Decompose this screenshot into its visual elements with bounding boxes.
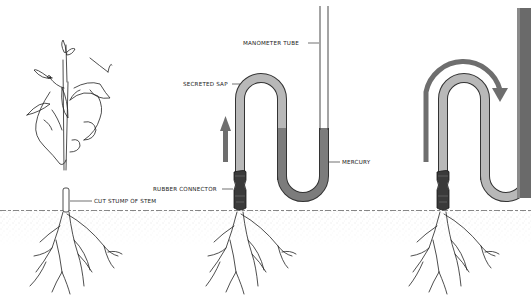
u-tube [240, 78, 282, 180]
manometer-tube [320, 6, 328, 130]
rubber-connector [234, 171, 246, 211]
mercury-u-bend [282, 128, 324, 197]
up-arrow-icon [220, 116, 231, 162]
cut-stump-label: CUT STUMP OF STEM [94, 198, 156, 204]
cut-stump [63, 188, 69, 212]
hand-with-plant-illustration [27, 40, 112, 170]
right-edge-shadow [517, 8, 531, 198]
panel-3 [409, 8, 531, 294]
manometer-tube-label: MANOMETER TUBE [243, 40, 299, 46]
mercury-label: MERCURY [342, 159, 371, 165]
root-pressure-diagram: CUT STUMP OF STEM [0, 0, 531, 307]
secreted-sap-label: SECRETED SAP [183, 81, 228, 87]
u-tube-overflow [443, 78, 527, 197]
rubber-connector-3 [437, 171, 449, 211]
panel-2: MANOMETER TUBE SECRETED SAP MERCURY RUBB… [153, 6, 371, 294]
rubber-connector-label: RUBBER CONNECTOR [153, 186, 217, 192]
panel-1: CUT STUMP OF STEM [27, 40, 156, 294]
